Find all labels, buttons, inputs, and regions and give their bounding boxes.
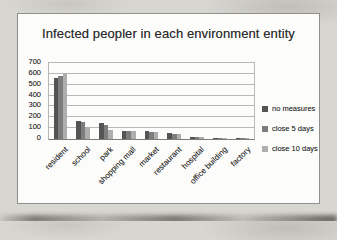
x-axis-label: resident [43,145,69,171]
bar [245,138,250,139]
bar [85,127,90,139]
y-axis-tick-label: 100 [28,123,41,131]
chart-title: Infected peopler in each environment ent… [18,26,319,41]
x-axis-label: school [70,145,93,168]
legend-swatch [262,106,268,112]
bar [131,131,136,139]
legend: no measuresclose 5 daysclose 10 days [262,104,318,164]
legend-item: no measures [262,104,318,113]
y-axis-tick-label: 700 [28,58,41,66]
y-axis-tick-label: 600 [28,69,41,77]
y-axis-tick-label: 400 [28,91,41,99]
gridline [49,73,254,74]
y-axis-tick-label: 300 [28,101,41,109]
legend-label: close 10 days [272,144,318,153]
x-axis-label: park [98,145,115,162]
bar [108,130,113,139]
bar [199,137,204,139]
legend-swatch [262,146,268,152]
legend-item: close 5 days [262,124,318,133]
scan-artifact-smudge [0,215,337,221]
bar [222,138,227,139]
y-axis-tick-label: 500 [28,80,41,88]
legend-item: close 10 days [262,144,318,153]
x-axis-label: factory [229,145,252,168]
y-axis-tick-label: 200 [28,112,41,120]
legend-label: close 5 days [272,124,314,133]
gridline [49,116,254,117]
gridline [49,105,254,106]
legend-swatch [262,126,268,132]
bar [177,134,182,139]
gridline [49,95,254,96]
bar [63,73,68,139]
bar [154,132,159,139]
gridline [49,84,254,85]
legend-label: no measures [272,104,315,113]
chart-frame: Infected peopler in each environment ent… [17,13,320,204]
y-axis-tick-label: 0 [37,134,41,142]
plot-area [48,62,255,140]
